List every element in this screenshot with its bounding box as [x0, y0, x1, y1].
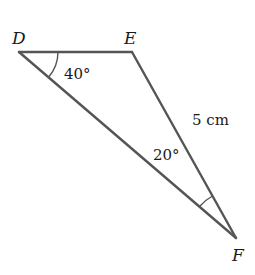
angle-label-D: 40° [64, 67, 91, 82]
side-label-EF: 5 cm [192, 113, 229, 128]
angle-arc-D [49, 52, 59, 77]
side-EF [132, 52, 236, 238]
vertex-label-E: E [124, 30, 136, 47]
triangle-diagram: D E F 40° 20° 5 cm [0, 0, 255, 275]
vertex-label-F: F [232, 247, 244, 264]
side-DF [19, 52, 236, 238]
vertex-label-D: D [12, 30, 26, 47]
angle-arc-F [200, 196, 213, 207]
angle-label-F: 20° [153, 148, 180, 163]
